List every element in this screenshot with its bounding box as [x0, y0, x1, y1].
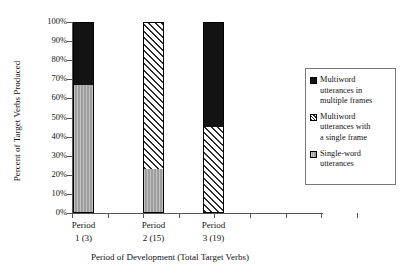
bar-segment	[204, 23, 223, 127]
bar-segment	[144, 23, 163, 169]
x-axis-title: Period of Development (Total Target Verb…	[0, 252, 340, 262]
bar-segment	[204, 127, 223, 212]
y-axis-tick-label: 100%	[25, 17, 67, 26]
y-axis-tick-label: 80%	[25, 55, 67, 64]
x-axis-tick	[250, 213, 251, 218]
bar-segment	[144, 169, 163, 212]
x-axis-category-label-line: 3 (19)	[172, 232, 256, 245]
legend-label-line: multiple frames	[320, 96, 372, 107]
y-axis-tick	[67, 41, 72, 42]
legend-label-line: Single-word	[320, 149, 361, 160]
legend-item: Multiwordutterances inmultiple frames	[310, 75, 391, 107]
legend-label-line: Multiword	[320, 112, 370, 123]
chart-legend: Multiwordutterances inmultiple framesMul…	[305, 68, 396, 185]
bar-segment	[74, 23, 93, 85]
legend-label: Multiwordutterances inmultiple frames	[320, 75, 372, 107]
legend-label-line: utterances in	[320, 86, 372, 97]
x-axis-tick	[286, 213, 287, 218]
bar-stack	[143, 22, 164, 213]
y-axis-tick-label: 60%	[25, 93, 67, 102]
x-axis-category-label-line: Period	[172, 219, 256, 232]
y-axis-title: Percent of Target Verbs Produced	[12, 21, 22, 221]
legend-label-line: utterances with	[320, 122, 370, 133]
x-axis-tick	[357, 213, 358, 218]
bar-stack	[203, 22, 224, 213]
y-axis-tick-label: 90%	[25, 36, 67, 45]
y-axis-tick	[67, 156, 72, 157]
y-axis-tick	[67, 98, 72, 99]
legend-label: Multiwordutterances witha single frame	[320, 112, 370, 144]
y-axis-tick	[67, 22, 72, 23]
plot-area	[73, 22, 323, 213]
y-axis-tick	[67, 194, 72, 195]
y-axis-tick-label: 0%	[25, 208, 67, 217]
y-axis-tick-label: 40%	[25, 132, 67, 141]
x-axis-category-label: Period3 (19)	[172, 219, 256, 245]
legend-swatch-icon	[310, 77, 317, 84]
x-axis-tick	[143, 213, 144, 218]
legend-label-line: utterances	[320, 159, 361, 170]
x-axis-tick	[179, 213, 180, 218]
bar-segment	[74, 85, 93, 212]
y-axis-tick	[67, 175, 72, 176]
y-axis-tick-label: 50%	[25, 113, 67, 122]
legend-swatch-icon	[310, 151, 317, 158]
y-axis-tick	[67, 60, 72, 61]
legend-item: Multiwordutterances witha single frame	[310, 112, 391, 144]
y-axis-tick	[67, 137, 72, 138]
x-axis-tick	[321, 213, 322, 218]
x-axis-tick	[214, 213, 215, 218]
y-axis-tick	[67, 79, 72, 80]
legend-label-line: Multiword	[320, 75, 372, 86]
bar-stack	[73, 22, 94, 213]
legend-item: Single-wordutterances	[310, 149, 391, 170]
y-axis-tick-label: 30%	[25, 151, 67, 160]
y-axis-tick-label: 10%	[25, 189, 67, 198]
x-axis-tick	[72, 213, 73, 218]
chart-figure: Percent of Target Verbs Produced 100%90%…	[0, 0, 419, 276]
y-axis-tick	[67, 118, 72, 119]
legend-label: Single-wordutterances	[320, 149, 361, 170]
legend-label-line: a single frame	[320, 133, 370, 144]
y-axis-tick-label: 70%	[25, 74, 67, 83]
legend-swatch-icon	[310, 114, 317, 121]
y-axis-tick-label: 20%	[25, 170, 67, 179]
x-axis-tick	[108, 213, 109, 218]
